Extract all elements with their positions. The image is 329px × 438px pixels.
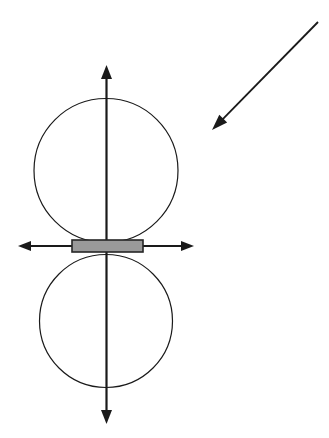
horizontal-axis-right-arrowhead <box>181 241 194 251</box>
horizontal-axis-left-arrowhead <box>18 241 31 251</box>
diagram-canvas <box>0 0 329 438</box>
incident-arrow-line <box>220 22 318 122</box>
center-element-rectangle <box>72 240 143 252</box>
vertical-axis-top-arrowhead <box>101 65 112 79</box>
radiation-pattern-figure <box>0 0 329 438</box>
vertical-axis-bottom-arrowhead <box>101 410 112 424</box>
incident-arrow <box>212 22 318 130</box>
